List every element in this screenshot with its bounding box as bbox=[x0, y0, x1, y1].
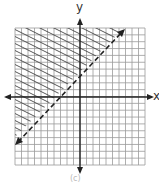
figure-caption: (c) bbox=[70, 174, 81, 183]
y-axis-arrow-down-icon bbox=[77, 167, 83, 174]
x-axis-label: x bbox=[153, 89, 159, 103]
y-axis-arrow-up-icon bbox=[77, 18, 83, 25]
x-axis-arrow-left-icon bbox=[4, 94, 11, 100]
y-axis-label: y bbox=[76, 0, 83, 14]
coordinate-plane bbox=[0, 0, 159, 187]
